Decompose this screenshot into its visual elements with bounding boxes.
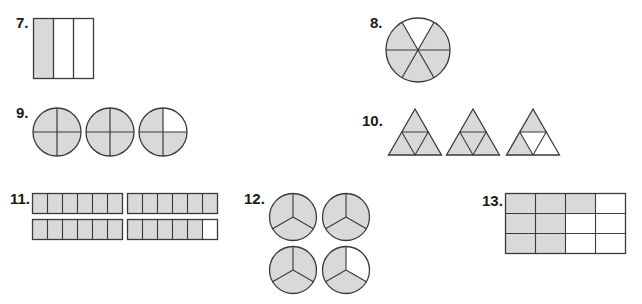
circle-2 [323,194,370,241]
triangle-3 [507,109,560,155]
problem-9-number: 9. [16,104,29,121]
problem-10-triangles [388,108,568,158]
bar-3 [33,220,123,240]
problem-13-grid [505,193,629,255]
problem-8-number: 8. [370,14,383,31]
problem-11-bars [32,193,222,245]
circle-1 [270,194,317,241]
triangle-2 [447,109,500,155]
problem-9-circles [32,108,192,160]
bar-1 [33,194,123,214]
circle-4 [323,246,370,293]
problem-8-circle [384,16,454,86]
problem-7-number: 7. [16,14,29,31]
circle-1 [33,108,81,156]
bar-4 [128,220,218,240]
bar-2 [128,194,218,214]
problem-12-number: 12. [244,190,265,207]
problem-12-circles [269,193,389,304]
problem-13-number: 13. [482,192,503,209]
problem-7-rectangle [33,18,95,80]
problem-10-number: 10. [362,112,383,129]
circle-2 [86,108,134,156]
triangle-1 [389,109,442,155]
circle-3 [270,247,317,294]
problem-11-number: 11. [10,190,30,207]
circle-3 [139,108,187,156]
